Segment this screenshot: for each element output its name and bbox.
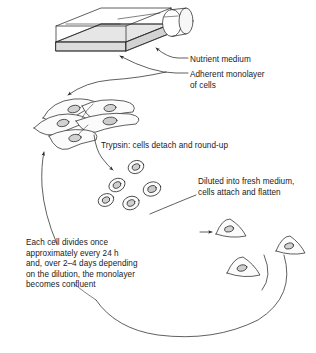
label-growth-line5: becomes confluent	[26, 280, 96, 289]
culture-flask	[56, 8, 193, 51]
leader-line-nutrient-medium	[156, 48, 188, 58]
label-trypsin: Trypsin: cells detach and round-up	[101, 141, 228, 152]
flask-neck	[163, 8, 194, 37]
label-growth-line3: and, over 2–4 days depending	[26, 259, 138, 268]
rounded-cell	[96, 191, 115, 208]
label-growth-line4: on the dilution, the monolayer	[26, 270, 135, 279]
label-nutrient-medium: Nutrient medium	[190, 55, 251, 66]
label-growth-line2: approximately every 24 h	[26, 249, 119, 258]
nutrient-medium-layer	[56, 24, 171, 51]
rounded-cell	[141, 180, 162, 199]
label-diluted-line1: Diluted into fresh medium,	[198, 177, 294, 186]
label-adherent-monolayer-line2: of cells	[190, 81, 216, 90]
label-adherent-monolayer-line1: Adherent monolayer	[190, 70, 265, 79]
flattened-cell	[276, 236, 305, 254]
arrow-return-to-monolayer	[42, 152, 57, 244]
leader-line-adherent-monolayer	[120, 56, 188, 73]
label-growth-line1: Each cell divides once	[26, 238, 108, 247]
adherent-cell	[49, 130, 97, 150]
rounded-cell	[107, 176, 128, 195]
leader-line-diluted	[150, 195, 196, 214]
flattened-cell	[216, 219, 246, 237]
arrow-confluent-loop-small	[262, 255, 268, 290]
label-diluted-line2: cells attach and flatten	[198, 188, 281, 197]
label-diluted-into-fresh-medium: Diluted into fresh medium,cells attach a…	[198, 177, 294, 198]
rounded-cell-cluster	[96, 158, 162, 212]
flattened-cell-group	[216, 219, 305, 277]
arrow-flask-to-monolayer	[68, 72, 166, 95]
cell-culture-passaging-figure: Nutrient medium Adherent monolayerof cel…	[0, 0, 316, 353]
flattened-cell	[227, 257, 260, 277]
label-adherent-monolayer: Adherent monolayerof cells	[190, 70, 265, 91]
rounded-cell	[121, 194, 141, 212]
rounded-cell	[126, 158, 145, 176]
label-growth-note: Each cell divides onceapproximately ever…	[26, 238, 138, 291]
